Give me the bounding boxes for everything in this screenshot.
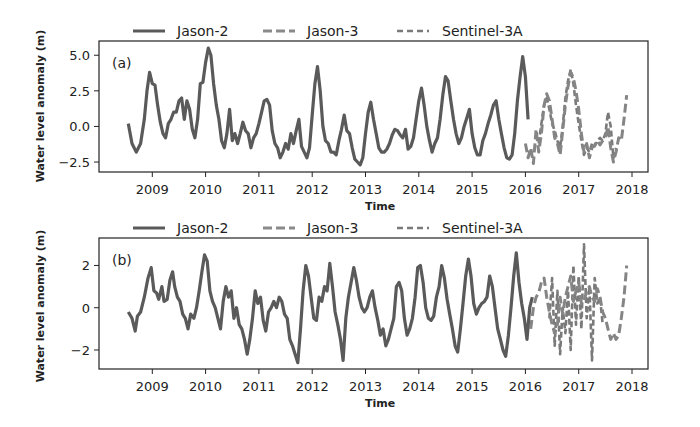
series-sentinel3a	[536, 70, 616, 158]
x-tick-label: 2009	[136, 379, 169, 394]
legend-b: Jason-2 Jason-3 Sentinel-3A	[133, 220, 523, 236]
plot-area-a	[128, 48, 626, 165]
legend-label-jason2: Jason-2	[176, 23, 228, 39]
figure: Jason-2 Jason-3 Sentinel-3A Water level …	[0, 0, 700, 427]
y-tick-label: −2	[71, 343, 90, 358]
legend-label-jason2: Jason-2	[176, 220, 228, 236]
panel-b: Jason-2 Jason-3 Sentinel-3A Water level …	[34, 220, 649, 410]
x-tick-label: 2015	[456, 379, 489, 394]
series-jason3	[531, 266, 627, 340]
series-jason2	[128, 48, 528, 165]
panel-label-b: (b)	[112, 252, 132, 268]
y-tick-label: 0.0	[69, 119, 90, 134]
plot-area-b	[128, 244, 626, 362]
x-ticks-a: 2009201020112012201320142015201620172018	[136, 172, 649, 197]
y-tick-label: 2.5	[69, 84, 90, 99]
legend-label-sentinel3a: Sentinel-3A	[442, 23, 523, 39]
x-axis-title-b: Time	[365, 397, 395, 410]
panel-a: Jason-2 Jason-3 Sentinel-3A Water level …	[34, 23, 649, 213]
x-tick-label: 2015	[456, 182, 489, 197]
y-axis-title-b: Water level anomaly (m)	[34, 230, 47, 383]
x-tick-label: 2009	[136, 182, 169, 197]
x-tick-label: 2013	[349, 379, 382, 394]
y-tick-label: 5.0	[69, 48, 90, 63]
x-tick-label: 2011	[242, 182, 275, 197]
x-tick-label: 2017	[562, 182, 595, 197]
x-tick-label: 2011	[242, 379, 275, 394]
legend-label-jason3: Jason-3	[306, 220, 358, 236]
legend-label-jason3: Jason-3	[306, 23, 358, 39]
x-tick-label: 2018	[615, 379, 648, 394]
y-tick-label: −2.5	[58, 155, 90, 170]
x-tick-label: 2012	[296, 379, 329, 394]
x-tick-label: 2016	[509, 182, 542, 197]
x-tick-label: 2012	[296, 182, 329, 197]
x-tick-label: 2014	[402, 182, 435, 197]
y-ticks-a: 5.02.50.0−2.5	[58, 48, 99, 170]
x-tick-label: 2013	[349, 182, 382, 197]
x-tick-label: 2010	[189, 379, 222, 394]
y-ticks-b: 20−2	[71, 258, 99, 358]
x-tick-label: 2014	[402, 379, 435, 394]
legend-a: Jason-2 Jason-3 Sentinel-3A	[133, 23, 523, 39]
x-axis-title-a: Time	[365, 200, 395, 213]
legend-label-sentinel3a: Sentinel-3A	[442, 220, 523, 236]
x-ticks-b: 2009201020112012201320142015201620172018	[136, 369, 649, 394]
x-tick-label: 2010	[189, 182, 222, 197]
series-jason2	[128, 253, 532, 363]
x-tick-label: 2018	[615, 182, 648, 197]
panel-label-a: (a)	[112, 55, 132, 71]
y-tick-label: 2	[82, 258, 90, 273]
x-tick-label: 2016	[509, 379, 542, 394]
series-jason3	[525, 72, 626, 163]
y-tick-label: 0	[82, 301, 90, 316]
x-tick-label: 2017	[562, 379, 595, 394]
y-axis-title-a: Water level anomaly (m)	[34, 30, 47, 183]
